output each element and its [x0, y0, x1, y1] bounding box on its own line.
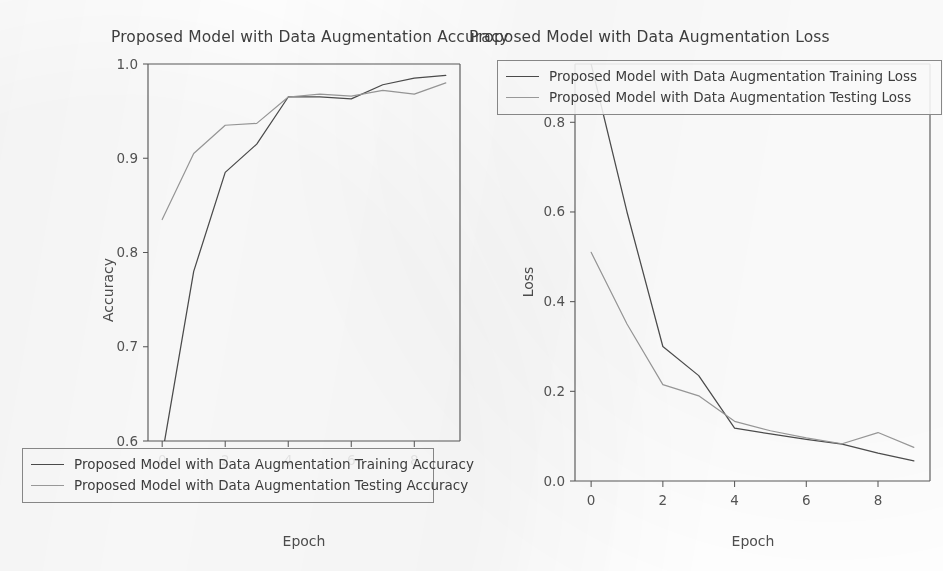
- x-tick-label: 8: [874, 492, 883, 508]
- y-tick-label: 0.0: [544, 473, 565, 489]
- y-tick-label: 0.2: [544, 383, 565, 399]
- y-tick-label: 0.8: [117, 244, 138, 260]
- y-tick-label: 1.0: [117, 56, 138, 72]
- x-tick-label: 4: [730, 492, 739, 508]
- accuracy-y-ticks: 0.60.70.80.91.0: [117, 56, 148, 449]
- figure-two-panel-training-curves: Proposed Model with Data Augmentation Ac…: [0, 0, 943, 571]
- loss-axes: [575, 64, 930, 481]
- y-tick-label: 0.6: [544, 203, 565, 219]
- x-tick-label: 0: [587, 492, 596, 508]
- accuracy-y-axis-title: Accuracy: [100, 258, 116, 322]
- accuracy-testing-line: [162, 83, 446, 220]
- legend-label-loss-training: Proposed Model with Data Augmentation Tr…: [549, 70, 917, 84]
- loss-x-axis-title: Epoch: [732, 533, 775, 549]
- y-tick-label: 0.4: [544, 293, 565, 309]
- legend-label-loss-testing: Proposed Model with Data Augmentation Te…: [549, 91, 911, 105]
- accuracy-training-line: [162, 75, 446, 455]
- line-swatch-icon: [31, 464, 64, 465]
- legend-accuracy: Proposed Model with Data Augmentation Tr…: [22, 448, 434, 503]
- x-tick-label: 6: [802, 492, 811, 508]
- panel-accuracy: Proposed Model with Data Augmentation Ac…: [0, 0, 478, 571]
- loss-y-ticks: 0.00.20.40.60.8: [544, 114, 575, 489]
- y-tick-label: 0.7: [117, 338, 138, 354]
- legend-item-loss-training: Proposed Model with Data Augmentation Tr…: [506, 66, 930, 87]
- y-tick-label: 0.8: [544, 114, 565, 130]
- x-tick-label: 2: [659, 492, 668, 508]
- legend-loss: Proposed Model with Data Augmentation Tr…: [497, 60, 942, 115]
- legend-label-accuracy-training: Proposed Model with Data Augmentation Tr…: [74, 458, 474, 472]
- legend-item-accuracy-testing: Proposed Model with Data Augmentation Te…: [31, 475, 422, 496]
- legend-label-accuracy-testing: Proposed Model with Data Augmentation Te…: [74, 479, 468, 493]
- legend-item-accuracy-training: Proposed Model with Data Augmentation Tr…: [31, 454, 422, 475]
- y-tick-label: 0.9: [117, 150, 138, 166]
- loss-y-axis-title: Loss: [520, 267, 536, 298]
- accuracy-x-axis-title: Epoch: [283, 533, 326, 549]
- line-swatch-icon: [31, 485, 64, 486]
- loss-x-ticks: 02468: [587, 481, 882, 508]
- y-tick-label: 0.6: [117, 433, 138, 449]
- accuracy-axes: [148, 64, 460, 441]
- loss-training-line: [591, 64, 914, 461]
- legend-item-loss-testing: Proposed Model with Data Augmentation Te…: [506, 87, 930, 108]
- line-swatch-icon: [506, 76, 539, 77]
- line-swatch-icon: [506, 97, 539, 98]
- loss-testing-line: [591, 252, 914, 447]
- panel-loss: Proposed Model with Data Augmentation Lo…: [465, 0, 943, 571]
